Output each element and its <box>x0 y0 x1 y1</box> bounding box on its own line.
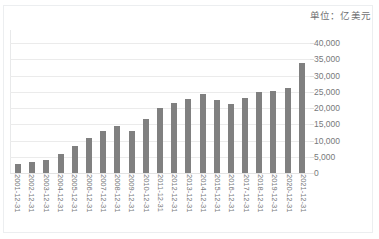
y-axis-tick-label: 30,000 <box>314 71 340 81</box>
y-axis-tick-mark <box>310 43 314 44</box>
bar[interactable] <box>285 88 291 173</box>
x-axis-tick-label: 2010-12-31 <box>142 174 150 212</box>
x-axis-tick-label: 2007-12-31 <box>99 174 107 212</box>
x-axis-tick-label: 2006-12-31 <box>85 174 93 212</box>
y-axis-tick-label: 40,000 <box>314 38 340 48</box>
bar[interactable] <box>43 160 49 173</box>
x-axis-tick-label: 2013-12-31 <box>185 174 193 212</box>
bar[interactable] <box>299 63 305 174</box>
y-axis-tick-mark <box>310 92 314 93</box>
bar[interactable] <box>58 154 64 174</box>
bar[interactable] <box>157 108 163 173</box>
bar[interactable] <box>200 94 206 173</box>
bar[interactable] <box>129 131 135 173</box>
y-axis-tick-mark <box>310 108 314 109</box>
x-axis-tick-label: 2015-12-31 <box>213 174 221 212</box>
x-axis-tick-label: 2004-12-31 <box>56 174 64 212</box>
bar-slot <box>68 43 82 173</box>
bar[interactable] <box>270 91 276 173</box>
y-axis-tick-mark <box>310 157 314 158</box>
bar[interactable] <box>114 126 120 173</box>
bar-slot <box>266 43 280 173</box>
bar-slot <box>153 43 167 173</box>
bar-slot <box>11 43 25 173</box>
x-axis-tick-label: 2019-12-31 <box>271 174 279 212</box>
x-axis-tick-label: 2003-12-31 <box>42 174 50 212</box>
bar[interactable] <box>72 146 78 173</box>
bar[interactable] <box>100 131 106 173</box>
bar[interactable] <box>185 99 191 173</box>
y-axis-tick-mark <box>310 141 314 142</box>
bar-slot <box>125 43 139 173</box>
bar-series <box>10 43 310 173</box>
bar-slot <box>167 43 181 173</box>
x-axis-tick-label: 2012-12-31 <box>171 174 179 212</box>
x-axis-tick-label: 2014-12-31 <box>199 174 207 212</box>
plot-area <box>10 43 310 173</box>
y-axis-tick-label: 10,000 <box>314 136 340 146</box>
bar-slot <box>39 43 53 173</box>
x-axis-tick-label: 2021-12-31 <box>299 174 307 212</box>
y-axis-tick-label: 15,000 <box>314 119 340 129</box>
y-axis-tick-mark <box>310 76 314 77</box>
x-axis-tick-label: 2001-12-31 <box>13 174 21 212</box>
x-axis-tick-label: 2017-12-31 <box>242 174 250 212</box>
y-axis-tick-label: 20,000 <box>314 103 340 113</box>
bar-slot <box>139 43 153 173</box>
bar-slot <box>195 43 209 173</box>
y-axis-tick-label: 5,000 <box>314 152 335 162</box>
bar[interactable] <box>228 104 234 173</box>
bar-slot <box>295 43 309 173</box>
bar-slot <box>54 43 68 173</box>
bar-slot <box>25 43 39 173</box>
bar-slot <box>281 43 295 173</box>
x-axis-tick-label: 2011-12-31 <box>156 174 164 212</box>
bar[interactable] <box>29 162 35 173</box>
y-axis-tick-label: 0 <box>314 168 319 178</box>
x-axis-tick-label: 2002-12-31 <box>28 174 36 212</box>
x-axis-tick-label: 2005-12-31 <box>71 174 79 212</box>
bar-slot <box>210 43 224 173</box>
x-axis-tick-label: 2020-12-31 <box>285 174 293 212</box>
x-axis-tick-label: 2018-12-31 <box>256 174 264 212</box>
y-axis: 40,00035,00030,00025,00020,00015,00010,0… <box>314 43 374 173</box>
chart-container: 单位：亿美元 40,00035,00030,00025,00020,00015,… <box>0 0 379 239</box>
x-axis-tick-label: 2009-12-31 <box>128 174 136 212</box>
bar-slot <box>110 43 124 173</box>
x-axis-tick-label: 2016-12-31 <box>228 174 236 212</box>
unit-caption: 单位：亿美元 <box>310 8 371 22</box>
bar[interactable] <box>214 100 220 173</box>
y-axis-tick-mark <box>310 124 314 125</box>
x-axis: 2001-12-312002-12-312003-12-312004-12-31… <box>10 174 310 234</box>
y-axis-tick-mark <box>310 173 314 174</box>
y-axis-tick-label: 35,000 <box>314 54 340 64</box>
x-axis-tick-label: 2008-12-31 <box>113 174 121 212</box>
bar[interactable] <box>242 98 248 173</box>
bar[interactable] <box>143 119 149 173</box>
bar[interactable] <box>86 138 92 173</box>
y-axis-tick-mark <box>310 59 314 60</box>
bar-slot <box>181 43 195 173</box>
bar-slot <box>238 43 252 173</box>
y-axis-tick-label: 25,000 <box>314 87 340 97</box>
bar[interactable] <box>171 103 177 173</box>
bar-slot <box>224 43 238 173</box>
bar-slot <box>96 43 110 173</box>
bar[interactable] <box>15 164 21 173</box>
bar[interactable] <box>256 92 262 173</box>
bar-slot <box>82 43 96 173</box>
bar-slot <box>252 43 266 173</box>
